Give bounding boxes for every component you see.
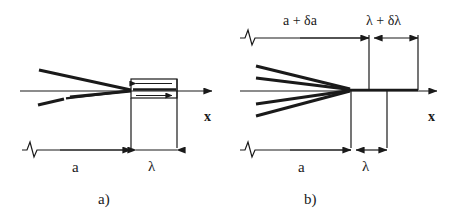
panel-a-axis-label: x — [204, 110, 211, 124]
panel-a-dimension-label-a: a — [72, 160, 79, 175]
panel-b-dimension-line-top — [240, 30, 418, 45]
panel-b-dimension-label-a: a — [298, 160, 305, 175]
panel-b-dimension-label-lambda-plus-delta-lambda: λ + δλ — [366, 14, 401, 28]
diagram-canvas — [0, 0, 469, 219]
panel-b-dimension-label-a-plus-delta-a: a + δa — [283, 14, 317, 28]
panel-a-rays — [38, 70, 131, 105]
panel-a-box-arrows — [133, 84, 176, 96]
figure-root: x a λ a) a + δa λ + δλ x a λ b) — [0, 0, 469, 219]
panel-a-caption: a) — [98, 192, 110, 207]
panel-b-dimension-label-lambda: λ — [362, 159, 369, 174]
panel-b-dimension-line-bottom — [240, 142, 387, 157]
panel-a-graphics — [20, 70, 212, 157]
panel-a-dimension-line — [22, 142, 177, 157]
panel-b-caption: b) — [304, 192, 317, 207]
panel-b-graphics — [240, 30, 437, 157]
panel-b-axis-label: x — [428, 110, 435, 124]
panel-a-dimension-label-lambda: λ — [148, 159, 155, 174]
